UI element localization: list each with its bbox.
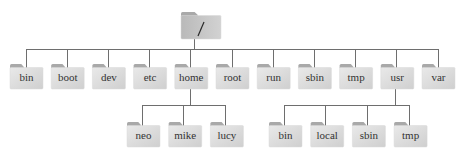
folder-home-lucy[interactable]: lucy xyxy=(210,122,243,147)
directory-tree-diagram: /binbootdevetchomeneomikelucyrootrunsbin… xyxy=(0,0,461,158)
folder-var[interactable]: var xyxy=(422,64,455,89)
folder-etc[interactable]: etc xyxy=(134,64,167,89)
folder-label: mike xyxy=(174,129,196,141)
folder-usr[interactable]: usr xyxy=(381,64,414,89)
folder-home-mike[interactable]: mike xyxy=(169,122,202,147)
folder-dev[interactable]: dev xyxy=(92,64,125,89)
folder-usr-tmp[interactable]: tmp xyxy=(394,122,427,147)
folder-label: boot xyxy=(58,71,78,83)
folder-bin[interactable]: bin xyxy=(10,64,43,89)
folder-usr-sbin[interactable]: sbin xyxy=(352,122,385,147)
folder-home-neo[interactable]: neo xyxy=(127,122,160,147)
folder-label: usr xyxy=(391,71,405,83)
folder-root[interactable]: root xyxy=(216,64,249,89)
folder-label: dev xyxy=(101,71,117,83)
folder-tmp[interactable]: tmp xyxy=(340,64,373,89)
folder-label: lucy xyxy=(217,129,236,141)
folder-root[interactable]: / xyxy=(181,12,221,39)
folder-boot[interactable]: boot xyxy=(51,64,84,89)
folder-label: sbin xyxy=(360,129,379,141)
folder-label: neo xyxy=(136,129,152,141)
folder-run[interactable]: run xyxy=(257,64,290,89)
tree-nodes: /binbootdevetchomeneomikelucyrootrunsbin… xyxy=(10,12,455,147)
folder-sbin[interactable]: sbin xyxy=(298,64,331,89)
folder-label: local xyxy=(317,129,338,141)
folder-label: run xyxy=(266,71,281,83)
folder-label: tmp xyxy=(402,129,420,141)
folder-label: etc xyxy=(144,71,157,83)
folder-home[interactable]: home xyxy=(175,64,208,89)
folder-label: sbin xyxy=(306,71,325,83)
folder-label: root xyxy=(224,71,242,83)
folder-label: bin xyxy=(19,71,34,83)
folder-usr-local[interactable]: local xyxy=(311,122,344,147)
folder-label: tmp xyxy=(348,71,366,83)
folder-label: home xyxy=(179,71,204,83)
folder-usr-bin[interactable]: bin xyxy=(269,122,302,147)
folder-label: bin xyxy=(278,129,293,141)
folder-label: var xyxy=(431,71,445,83)
